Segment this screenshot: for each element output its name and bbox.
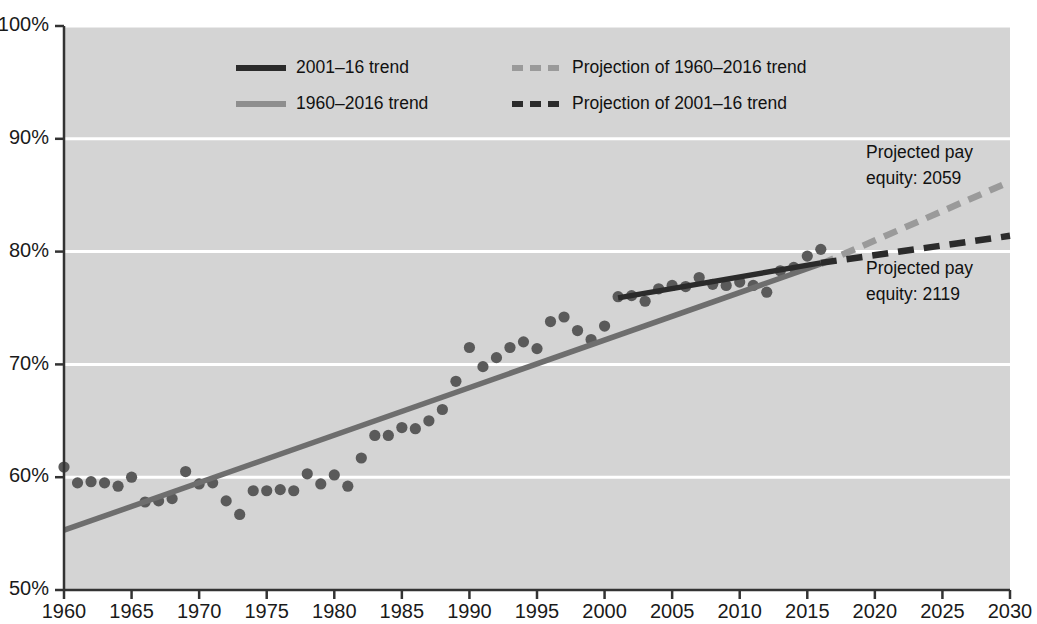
plot-area-background [64, 26, 1010, 590]
x-axis-tick-label: 2015 [785, 600, 830, 622]
data-point [761, 287, 772, 298]
data-point [315, 478, 326, 489]
data-point [396, 422, 407, 433]
data-point [261, 485, 272, 496]
x-axis-tick-label: 2020 [853, 600, 898, 622]
data-point [572, 325, 583, 336]
chart-canvas: 50%60%70%80%90%100%196019651970197519801… [0, 0, 1037, 624]
data-point [531, 343, 542, 354]
y-axis-tick-label: 60% [9, 464, 49, 486]
data-point [802, 251, 813, 262]
data-point [99, 477, 110, 488]
data-point [180, 466, 191, 477]
x-axis-tick-label: 1960 [42, 600, 87, 622]
data-point [234, 509, 245, 520]
data-point [410, 423, 421, 434]
data-point [437, 404, 448, 415]
projection-2001-16-annotation-line2: equity: 2119 [866, 284, 960, 304]
data-point [558, 311, 569, 322]
x-axis-tick-label: 2005 [650, 600, 695, 622]
projection-2001-16-annotation-line1: Projected pay [866, 258, 973, 278]
data-point [275, 484, 286, 495]
x-axis-tick-label: 1990 [447, 600, 492, 622]
data-point [640, 296, 651, 307]
x-axis-tick-label: 2000 [582, 600, 627, 622]
data-point [302, 468, 313, 479]
data-point [342, 481, 353, 492]
legend-label: Projection of 2001–16 trend [572, 93, 787, 113]
data-point [112, 481, 123, 492]
projection-1960-2016-annotation-line2: equity: 2059 [866, 168, 961, 188]
y-axis-tick-label: 50% [9, 577, 49, 599]
chart-figure: 50%60%70%80%90%100%196019651970197519801… [0, 0, 1037, 624]
data-point [383, 430, 394, 441]
x-axis-tick-label: 1980 [312, 600, 357, 622]
data-point [329, 469, 340, 480]
y-axis-tick-label: 80% [9, 239, 49, 261]
data-point [545, 316, 556, 327]
legend-label: Projection of 1960–2016 trend [572, 57, 806, 77]
legend-label: 1960–2016 trend [296, 93, 428, 113]
data-point [518, 336, 529, 347]
data-point [491, 352, 502, 363]
data-point [450, 376, 461, 387]
x-axis-tick-label: 1965 [109, 600, 154, 622]
x-axis-tick-label: 2030 [988, 600, 1033, 622]
x-axis-tick-label: 1970 [177, 600, 222, 622]
projection-1960-2016-annotation-line1: Projected pay [866, 142, 973, 162]
y-axis-tick-label: 70% [9, 352, 49, 374]
x-axis-tick-label: 1975 [244, 600, 289, 622]
x-axis-tick-label: 1985 [380, 600, 425, 622]
data-point [464, 342, 475, 353]
data-point [356, 452, 367, 463]
x-axis-tick-label: 2010 [717, 600, 762, 622]
data-point [504, 342, 515, 353]
x-axis-tick-label: 2025 [920, 600, 965, 622]
data-point [85, 476, 96, 487]
y-axis-tick-label: 100% [0, 13, 49, 35]
data-point [815, 244, 826, 255]
y-axis-tick-label: 90% [9, 126, 49, 148]
x-axis-tick-label: 1995 [515, 600, 560, 622]
data-point [221, 495, 232, 506]
legend-label: 2001–16 trend [296, 57, 409, 77]
data-point [126, 472, 137, 483]
data-point [369, 430, 380, 441]
data-point [477, 361, 488, 372]
data-point [599, 320, 610, 331]
data-point [248, 485, 259, 496]
data-point [72, 477, 83, 488]
data-point [288, 485, 299, 496]
data-point [423, 415, 434, 426]
